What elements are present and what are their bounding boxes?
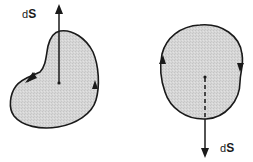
oval-surface [161, 25, 243, 119]
arrow-down-icon [201, 148, 209, 158]
diagram-canvas [0, 0, 253, 162]
label-s: S [28, 7, 36, 21]
base-point [57, 81, 60, 84]
right-surface-figure [159, 25, 244, 158]
right-normal-label: dS [220, 142, 234, 154]
left-surface-figure [10, 4, 98, 128]
left-normal-label: dS [22, 8, 36, 20]
label-s: S [226, 141, 234, 155]
kidney-surface [10, 31, 98, 128]
arrow-up-icon [55, 4, 63, 14]
